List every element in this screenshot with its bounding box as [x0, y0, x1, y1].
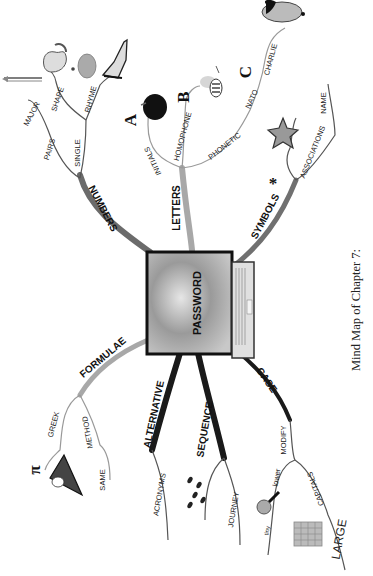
- label-name[interactable]: NAME: [319, 92, 328, 114]
- label-single[interactable]: SINGLE: [73, 139, 82, 167]
- label-phonetic[interactable]: PHONETIC: [206, 130, 243, 161]
- label-tiny[interactable]: tiny: [263, 526, 271, 536]
- pie-icon: [50, 455, 82, 495]
- laptop-screen: [147, 252, 232, 354]
- apple-icon: [141, 94, 167, 120]
- starfish-icon: [268, 118, 298, 148]
- label-rhyme[interactable]: RHYME: [83, 85, 99, 113]
- label-initials[interactable]: INITIALS: [142, 145, 163, 176]
- building-icon: [294, 522, 322, 546]
- glyph-pi: π: [25, 465, 44, 475]
- glyph-b: B: [174, 91, 193, 102]
- shoe-icon: [103, 40, 127, 78]
- branch-letters-line: [182, 168, 192, 250]
- label-same[interactable]: SAME: [98, 469, 107, 490]
- glyph-a: A: [121, 113, 140, 126]
- pencil-icon: [2, 76, 42, 82]
- label-pairs[interactable]: PAIRS: [42, 137, 57, 161]
- label-major[interactable]: MAJOR: [22, 100, 43, 128]
- charlie-chaplin-icon: [262, 0, 305, 22]
- branch-case-line: [236, 350, 290, 420]
- label-numbers[interactable]: NUMBERS: [86, 183, 120, 233]
- label-modify[interactable]: MODIFY: [279, 425, 288, 454]
- laptop-touchpad: [247, 300, 252, 314]
- glyph-asterisk: *: [269, 174, 278, 193]
- mind-map-canvas: PASSWORD NUMBERS LETTERS SYMBOLS FORMULA…: [0, 0, 373, 576]
- label-greek[interactable]: GREEK: [46, 411, 61, 439]
- center-laptop[interactable]: PASSWORD: [147, 252, 254, 358]
- label-letters[interactable]: LETTERS: [171, 185, 182, 231]
- dot-icon: [71, 67, 75, 71]
- swan-icon: [43, 44, 66, 72]
- glyph-c: C: [236, 66, 255, 78]
- bee-icon: [200, 66, 222, 97]
- figure-caption: Mind Map of Chapter 7:: [349, 249, 363, 371]
- label-case[interactable]: CASE: [254, 365, 279, 394]
- label-lower[interactable]: lower: [271, 467, 283, 487]
- footprints-icon: [186, 476, 206, 509]
- center-label: PASSWORD: [191, 271, 203, 335]
- label-nato[interactable]: NATO: [243, 88, 260, 110]
- label-method[interactable]: METHOD: [80, 415, 95, 449]
- bun-icon: [78, 54, 96, 78]
- label-acronyms[interactable]: ACRONYMS: [151, 472, 167, 516]
- magnifier-icon: [257, 492, 279, 514]
- label-sequence[interactable]: SEQUENCE: [194, 400, 215, 458]
- label-capitals[interactable]: CAPITALS: [305, 471, 326, 508]
